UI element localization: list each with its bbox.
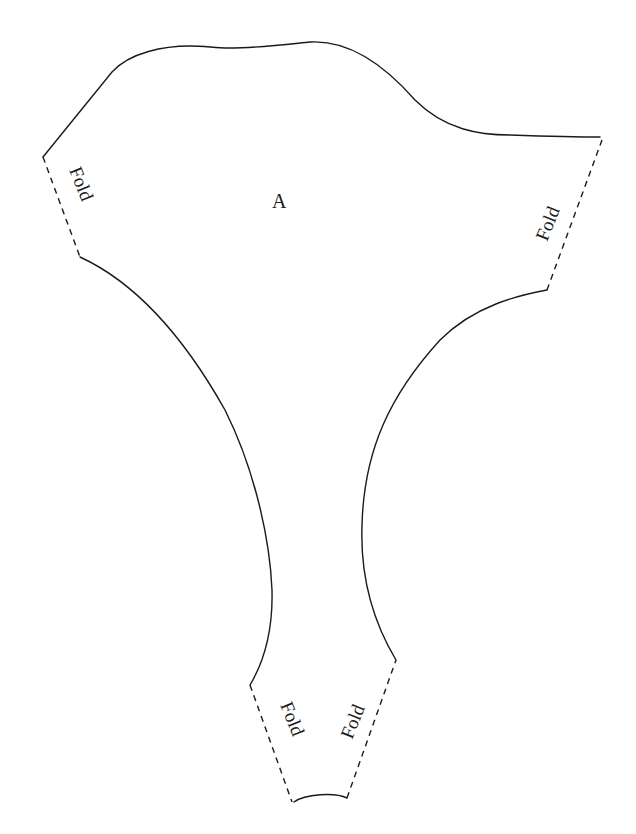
top-outline [43, 42, 600, 157]
fold-label-right-top: Fold [531, 203, 564, 244]
bottom-outline [294, 795, 347, 802]
pattern-canvas: A Fold Fold Fold Fold [0, 0, 636, 834]
fold-label-bottom-right: Fold [336, 701, 369, 742]
fold-label-left-top: Fold [65, 164, 98, 205]
piece-label: A [272, 190, 287, 212]
fold-label-bottom-left: Fold [276, 699, 309, 740]
left-side-outline [80, 257, 272, 685]
right-side-outline [362, 290, 547, 660]
